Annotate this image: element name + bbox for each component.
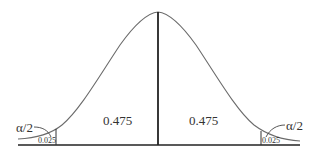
left-tail-area-label: 0.025 [38, 137, 56, 145]
normal-distribution-diagram [0, 0, 317, 156]
left-tail-symbol: α/2 [16, 121, 33, 134]
left-center-area-label: 0.475 [103, 114, 132, 127]
bell-curve [18, 12, 300, 141]
right-tail-symbol: α/2 [286, 119, 303, 132]
right-tail-area-label: 0.025 [262, 137, 280, 145]
right-center-area-label: 0.475 [189, 114, 218, 127]
